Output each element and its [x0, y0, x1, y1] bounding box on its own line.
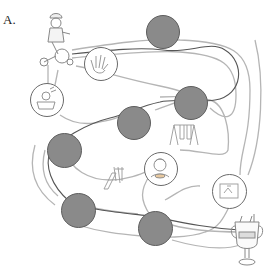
board-space-8 — [212, 174, 247, 209]
swing-set-icon — [168, 123, 200, 147]
slide-icon — [100, 163, 128, 191]
board-space-4 — [174, 86, 208, 120]
figure-label: A. — [3, 12, 16, 28]
board-space-7 — [144, 152, 178, 186]
child-in-bath-icon — [31, 84, 62, 115]
board-space-10 — [138, 211, 173, 246]
child-eating-icon — [145, 153, 176, 184]
board-space-1 — [146, 15, 180, 49]
board-space-5 — [117, 106, 151, 140]
child-on-tricycle-icon — [36, 10, 76, 70]
board-space-6 — [47, 133, 82, 168]
hand-icon — [85, 48, 116, 79]
game-board: A. — [0, 0, 271, 270]
picture-frame-icon — [213, 175, 245, 207]
board-space-3 — [30, 83, 64, 117]
board-space-9 — [61, 193, 96, 228]
trophy-icon — [230, 214, 264, 268]
board-space-2 — [84, 47, 118, 81]
